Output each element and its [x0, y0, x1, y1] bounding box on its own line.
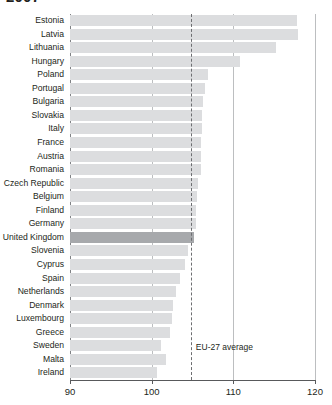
bar-row: [70, 190, 315, 204]
bar-row: [70, 109, 315, 123]
bar-row: [70, 122, 315, 136]
bar-france[interactable]: [70, 137, 201, 148]
bar-spain[interactable]: [70, 273, 180, 284]
bar-lithuania[interactable]: [70, 42, 276, 53]
bar-row: [70, 326, 315, 340]
bar-sweden[interactable]: [70, 340, 161, 351]
category-label-france: France: [0, 137, 64, 148]
bar-row: [70, 41, 315, 55]
category-label-spain: Spain: [0, 273, 64, 284]
bar-austria[interactable]: [70, 151, 201, 162]
gridline-120: [315, 14, 316, 380]
x-tick-label-120: 120: [307, 386, 323, 397]
bar-row: [70, 177, 315, 191]
bar-row: [70, 82, 315, 96]
bar-row: [70, 95, 315, 109]
bar-malta[interactable]: [70, 354, 166, 365]
category-label-belgium: Belgium: [0, 191, 64, 202]
category-label-slovakia: Slovakia: [0, 110, 64, 121]
bar-cyprus[interactable]: [70, 259, 185, 270]
bar-estonia[interactable]: [70, 15, 297, 26]
bar-united-kingdom[interactable]: [70, 232, 194, 243]
bar-row: [70, 353, 315, 367]
chart-title: 2007: [6, 0, 40, 4]
category-label-czech-republic: Czech Republic: [0, 178, 64, 189]
bar-row: [70, 312, 315, 326]
bar-row: [70, 28, 315, 42]
category-label-united-kingdom: United Kingdom: [0, 232, 64, 243]
bar-slovenia[interactable]: [70, 245, 188, 256]
category-label-greece: Greece: [0, 327, 64, 338]
category-label-hungary: Hungary: [0, 56, 64, 67]
bar-germany[interactable]: [70, 218, 196, 229]
bar-row: [70, 272, 315, 286]
x-tick-label-100: 100: [144, 386, 160, 397]
category-label-latvia: Latvia: [0, 29, 64, 40]
bar-czech-republic[interactable]: [70, 178, 198, 189]
category-label-slovenia: Slovenia: [0, 245, 64, 256]
category-label-malta: Malta: [0, 354, 64, 365]
x-tick-120: [315, 380, 316, 384]
bar-row: [70, 14, 315, 28]
bar-luxembourg[interactable]: [70, 313, 172, 324]
category-label-netherlands: Netherlands: [0, 286, 64, 297]
bar-slovakia[interactable]: [70, 110, 202, 121]
bar-chart: 2007 EstoniaLatviaLithuaniaHungaryPoland…: [0, 0, 332, 405]
bar-belgium[interactable]: [70, 191, 197, 202]
category-label-romania: Romania: [0, 164, 64, 175]
x-axis-line: [70, 380, 316, 381]
category-label-sweden: Sweden: [0, 340, 64, 351]
category-label-cyprus: Cyprus: [0, 259, 64, 270]
x-tick-100: [152, 380, 153, 384]
bar-row: [70, 136, 315, 150]
x-tick-90: [70, 380, 71, 384]
category-label-ireland: Ireland: [0, 367, 64, 378]
eu-average-label: EU-27 average: [196, 342, 253, 352]
plot-area: EU-27 average: [70, 14, 315, 380]
bar-ireland[interactable]: [70, 367, 157, 378]
bar-italy[interactable]: [70, 123, 202, 134]
x-tick-label-110: 110: [226, 386, 241, 397]
bar-row: [70, 204, 315, 218]
bar-row: [70, 163, 315, 177]
x-tick-label-90: 90: [65, 386, 76, 397]
x-tick-110: [233, 380, 234, 384]
bar-row: [70, 285, 315, 299]
bar-row: [70, 231, 315, 245]
bar-portugal[interactable]: [70, 83, 205, 94]
bar-latvia[interactable]: [70, 29, 298, 40]
bar-row: [70, 217, 315, 231]
bar-row: [70, 150, 315, 164]
bar-row: [70, 55, 315, 69]
category-label-denmark: Denmark: [0, 300, 64, 311]
bar-poland[interactable]: [70, 69, 208, 80]
bar-row: [70, 68, 315, 82]
category-label-italy: Italy: [0, 123, 64, 134]
eu-average-reference-line: [191, 14, 192, 380]
bar-row: [70, 258, 315, 272]
category-label-poland: Poland: [0, 69, 64, 80]
category-label-luxembourg: Luxembourg: [0, 313, 64, 324]
bar-row: [70, 366, 315, 380]
category-label-portugal: Portugal: [0, 83, 64, 94]
category-label-estonia: Estonia: [0, 15, 64, 26]
category-label-austria: Austria: [0, 151, 64, 162]
bar-greece[interactable]: [70, 327, 170, 338]
category-label-bulgaria: Bulgaria: [0, 96, 64, 107]
bar-finland[interactable]: [70, 205, 196, 216]
bar-romania[interactable]: [70, 164, 201, 175]
category-axis-labels: EstoniaLatviaLithuaniaHungaryPolandPortu…: [0, 14, 67, 380]
bar-netherlands[interactable]: [70, 286, 176, 297]
category-label-finland: Finland: [0, 205, 64, 216]
bar-bulgaria[interactable]: [70, 96, 203, 107]
bar-denmark[interactable]: [70, 300, 173, 311]
bar-row: [70, 299, 315, 313]
bar-row: [70, 244, 315, 258]
category-label-lithuania: Lithuania: [0, 42, 64, 53]
category-label-germany: Germany: [0, 218, 64, 229]
bar-hungary[interactable]: [70, 56, 240, 67]
bar-row: [70, 339, 315, 353]
